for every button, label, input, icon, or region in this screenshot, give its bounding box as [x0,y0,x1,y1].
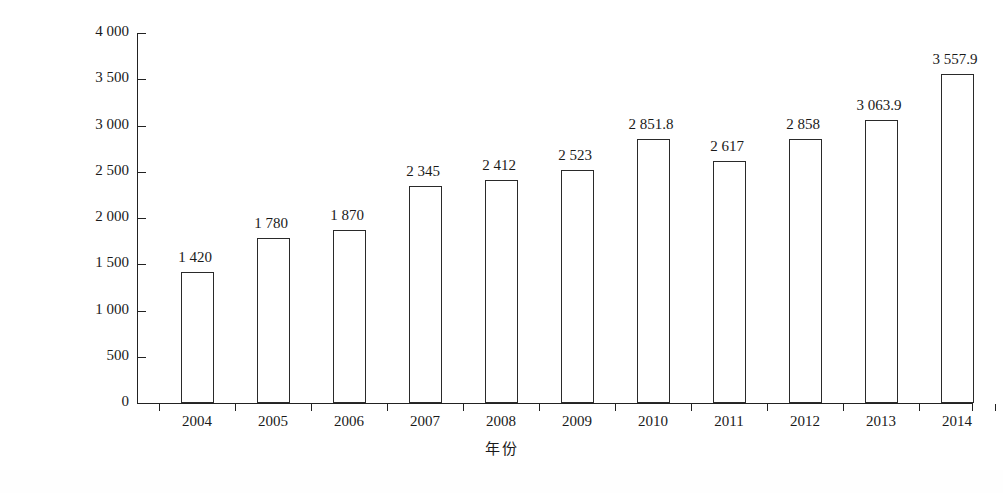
x-axis-line [137,403,973,404]
bar [941,74,974,403]
x-tick-label: 2009 [539,413,615,430]
x-tick-mark [691,404,692,411]
y-tick-mark [138,79,146,80]
x-tick-mark [159,404,160,411]
y-tick-mark [138,126,146,127]
bar-value-label: 2 858 [743,116,863,133]
y-tick-label: 3 000 [9,116,129,133]
x-tick-label: 2011 [691,413,767,430]
scan-artifact-strip [0,470,1003,493]
x-tick-mark [387,404,388,411]
y-tick-label: 3 500 [9,69,129,86]
bar [485,180,518,403]
bar [181,272,214,403]
x-tick-mark [843,404,844,411]
bar [333,230,366,403]
bar-value-label: 3 557.9 [895,51,1003,68]
bar [637,139,670,403]
x-axis-end-tick [972,404,973,411]
bar-value-label: 3 063.9 [819,97,939,114]
bar [257,238,290,403]
x-tick-mark [919,404,920,411]
bar [561,170,594,403]
x-tick-mark [539,404,540,411]
x-tick-label: 2010 [615,413,691,430]
plot-area: 05001 0001 5002 0002 5003 0003 5004 000 … [137,33,973,403]
bar [409,186,442,403]
x-tick-mark [463,404,464,411]
x-tick-mark [995,404,996,411]
x-tick-label: 2008 [463,413,539,430]
x-tick-label: 2013 [843,413,919,430]
y-tick-label: 500 [9,347,129,364]
y-tick-mark [138,311,146,312]
x-tick-mark [235,404,236,411]
x-tick-label: 2006 [311,413,387,430]
bar [713,161,746,403]
y-tick-label: 4 000 [9,23,129,40]
y-tick-label: 1 500 [9,254,129,271]
y-tick-mark [138,172,146,173]
x-tick-mark [615,404,616,411]
x-tick-label: 2005 [235,413,311,430]
bar [789,139,822,403]
x-tick-label: 2014 [919,413,995,430]
bar-value-label: 2 851.8 [591,116,711,133]
y-tick-mark [138,357,146,358]
x-axis-title: 年份 [0,437,1003,458]
y-tick-label: 2 500 [9,162,129,179]
y-tick-label: 1 000 [9,301,129,318]
x-tick-mark [311,404,312,411]
x-tick-mark [767,404,768,411]
bar-value-label: 1 870 [287,207,407,224]
bar-chart: 产量/万台 05001 0001 5002 0002 5003 0003 500… [0,0,1003,493]
x-tick-label: 2004 [159,413,235,430]
bar [865,120,898,403]
y-tick-label: 2 000 [9,208,129,225]
x-tick-label: 2012 [767,413,843,430]
bar-value-label: 2 617 [667,138,787,155]
y-tick-mark [138,403,146,404]
x-tick-label: 2007 [387,413,463,430]
y-tick-label: 0 [9,393,129,410]
y-tick-mark [138,218,146,219]
bar-value-label: 1 420 [135,249,255,266]
y-tick-mark [138,33,146,34]
bar-value-label: 2 523 [515,147,635,164]
